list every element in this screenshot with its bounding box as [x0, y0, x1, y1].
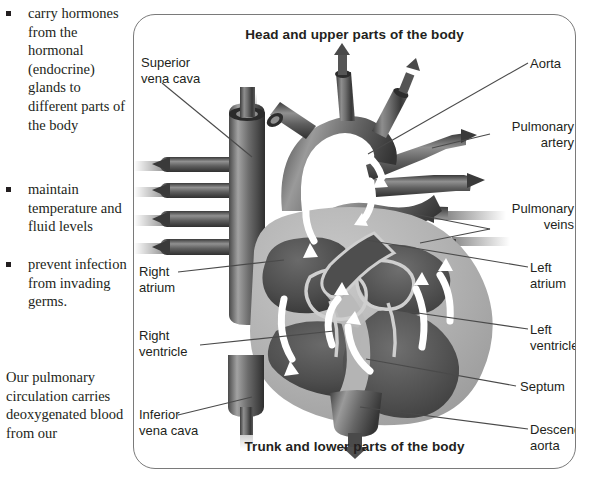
- label-pulmonary-veins: Pulmonary veins: [434, 201, 574, 232]
- list-item: carry hormones from the hormonal (endocr…: [6, 4, 128, 134]
- label-left-atrium: Left atrium: [530, 260, 566, 291]
- label-leader-lines: [134, 15, 576, 469]
- label-septum: Septum: [520, 379, 565, 395]
- bullet-square-icon: [6, 11, 11, 16]
- body-text-column: carry hormones from the hormonal (endocr…: [0, 0, 128, 488]
- label-inferior-vena-cava: Inferior vena cava: [139, 407, 198, 438]
- list-item-label: prevent infection from invading germs.: [28, 255, 128, 311]
- label-right-ventricle: Right ventricle: [139, 328, 187, 359]
- caption-trunk-lower-body: Trunk and lower parts of the body: [134, 439, 575, 454]
- list-item: prevent infection from invading germs.: [6, 255, 128, 311]
- list-item-label: carry hormones from the hormonal (endocr…: [28, 4, 128, 134]
- list-item: maintain temperature and fluid levels: [6, 180, 128, 236]
- heart-diagram-panel: Head and upper parts of the body: [133, 14, 576, 469]
- label-aorta: Aorta: [530, 56, 561, 72]
- list-item-label: maintain temperature and fluid levels: [28, 180, 128, 236]
- label-right-atrium: Right atrium: [139, 264, 175, 295]
- body-paragraph: Our pulmonary circulation carries deoxyg…: [6, 368, 130, 442]
- bullet-square-icon: [6, 262, 11, 267]
- label-pulmonary-artery: Pulmonary artery: [434, 119, 574, 150]
- bullet-square-icon: [6, 187, 11, 192]
- label-left-ventricle: Left ventricle: [530, 322, 576, 353]
- label-superior-vena-cava: Superior vena cava: [141, 55, 200, 86]
